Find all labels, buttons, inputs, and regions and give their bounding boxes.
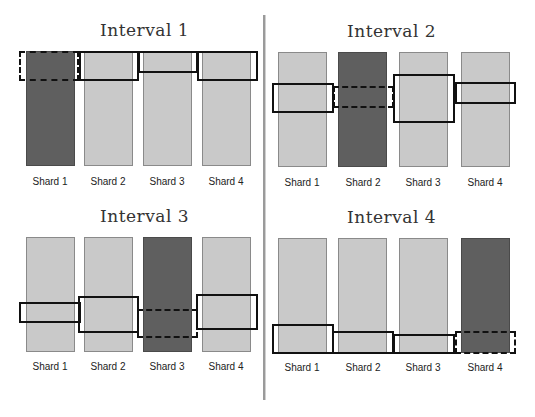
- range-box: [197, 51, 258, 81]
- range-box: [138, 51, 198, 73]
- shard-label: Shard 2: [78, 361, 138, 372]
- vertical-divider-shadow: [265, 15, 266, 400]
- range-box: [79, 51, 139, 81]
- panel-title: Interval 2: [347, 21, 436, 41]
- shard-bar-2-active: [338, 52, 387, 167]
- shard-bar-1: [26, 237, 75, 352]
- shard-label: Shard 3: [393, 177, 453, 188]
- shard-label: Shard 2: [333, 362, 393, 373]
- shard-label: Shard 1: [272, 362, 332, 373]
- range-box: [272, 324, 334, 354]
- shard-label: Shard 4: [196, 361, 256, 372]
- shard-bar-2: [84, 237, 133, 352]
- shard-label: Shard 4: [455, 177, 515, 188]
- shard-label: Shard 4: [455, 362, 515, 373]
- shard-label: Shard 3: [137, 361, 197, 372]
- panel-title: Interval 3: [100, 206, 189, 226]
- shard-label: Shard 3: [137, 176, 197, 187]
- shard-label: Shard 2: [78, 176, 138, 187]
- shard-label: Shard 1: [20, 176, 80, 187]
- shard-label: Shard 3: [393, 362, 453, 373]
- range-box: [19, 302, 81, 323]
- range-box: [455, 82, 516, 104]
- range-box-dashed: [137, 309, 198, 338]
- range-box: [78, 296, 139, 333]
- shard-label: Shard 2: [333, 177, 393, 188]
- panel-title: Interval 4: [347, 207, 436, 227]
- range-box: [196, 294, 258, 330]
- range-box-dashed: [455, 331, 516, 354]
- range-box: [393, 334, 455, 354]
- shard-label: Shard 1: [272, 177, 332, 188]
- shard-label: Shard 1: [20, 361, 80, 372]
- panel-title: Interval 1: [100, 20, 189, 40]
- range-box: [332, 331, 394, 354]
- range-box-dashed: [19, 51, 79, 81]
- range-box: [393, 74, 455, 123]
- range-box: [272, 83, 334, 113]
- shard-bar-4: [461, 52, 510, 167]
- range-box-dashed: [333, 86, 394, 108]
- shard-label: Shard 4: [196, 176, 256, 187]
